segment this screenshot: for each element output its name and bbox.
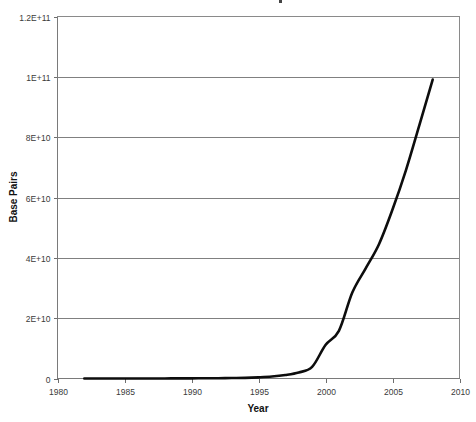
y-tick-label: 2E+10: [26, 314, 51, 324]
chart-figure: 1.2E+111E+118E+106E+104E+102E+100 198019…: [0, 0, 476, 422]
y-tick-label: 1E+11: [26, 73, 50, 83]
chart-canvas: 1.2E+111E+118E+106E+104E+102E+100 198019…: [0, 0, 476, 422]
y-tick-label: 1.2E+11: [19, 13, 51, 23]
x-tick-label: 1985: [116, 387, 135, 397]
x-axis-title: Year: [247, 403, 268, 414]
y-tick-label: 6E+10: [26, 194, 51, 204]
y-axis-title: Base Pairs: [8, 171, 19, 223]
chart-background: [0, 0, 476, 422]
y-tick-label: 8E+10: [26, 133, 51, 143]
y-tick-label: 4E+10: [26, 254, 51, 264]
y-tick-label: 0: [46, 375, 51, 385]
x-tick-label: 2005: [384, 387, 403, 397]
x-tick-label: 1990: [183, 387, 202, 397]
x-tick-label: 2010: [451, 387, 470, 397]
x-tick-label: 1995: [250, 387, 269, 397]
cropped-title-remnant: [279, 0, 282, 3]
x-tick-label: 1980: [49, 387, 68, 397]
x-tick-label: 2000: [317, 387, 336, 397]
